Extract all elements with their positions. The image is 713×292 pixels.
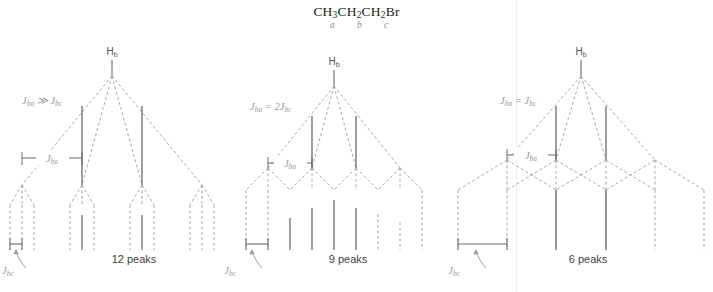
tree-2-group: Hb Jba = 2Jbc Jba bbox=[224, 56, 422, 278]
tree-1-jbc-label: Jbc bbox=[2, 265, 14, 278]
tree-3-peak-count: 6 peaks bbox=[569, 253, 608, 265]
tree-2-proton-label: Hb bbox=[328, 56, 339, 68]
tree-2-jba-bracket: Jba bbox=[268, 156, 312, 171]
tree-1-peak-count: 12 peaks bbox=[112, 253, 157, 265]
tree-1-proton-label: Hb bbox=[106, 46, 117, 58]
tree-1-jbc-bracket: Jbc bbox=[2, 238, 26, 278]
tree-3-peaks bbox=[458, 190, 704, 250]
tree-1-peaks bbox=[10, 205, 214, 250]
tree-2-peaks bbox=[246, 190, 422, 250]
tree-2-jbc-label: Jbc bbox=[224, 265, 236, 278]
tree-3-triplet-fans bbox=[458, 160, 704, 190]
tree-3-jbc-label: Jbc bbox=[448, 265, 460, 278]
tree-1-quartet-fan bbox=[22, 76, 202, 185]
splitting-trees-svg: Hb Jba ≫ Jbc bbox=[0, 0, 713, 292]
tree-2-coupling-relation: Jba = 2Jbc bbox=[250, 101, 292, 114]
tree-3-quartet-stems bbox=[556, 106, 606, 160]
tree-1-group: Hb Jba ≫ Jbc bbox=[2, 46, 214, 278]
tree-2-peak-count: 9 peaks bbox=[329, 253, 368, 265]
tree-3-jba-bracket: Jba bbox=[507, 148, 556, 163]
tree-2-quartet-fan bbox=[268, 86, 400, 168]
tree-1-jba-bracket: Jba bbox=[22, 151, 82, 166]
tree-3-coupling-relation: Jba = Jbc bbox=[500, 95, 537, 108]
tree-3-group: Hb Jba = Jbc Jba bbox=[448, 46, 704, 278]
tree-2-triplet-fans bbox=[246, 168, 422, 190]
tree-1-coupling-relation: Jba ≫ Jbc bbox=[22, 95, 63, 108]
tree-3-quartet-fan bbox=[507, 76, 655, 160]
tree-2-quartet-stems bbox=[312, 116, 356, 168]
tree-3-proton-label: Hb bbox=[575, 46, 586, 58]
tree-2-jbc-bracket: Jbc bbox=[224, 238, 268, 278]
tree-3-jbc-bracket: Jbc bbox=[448, 238, 507, 278]
tree-1-quartet-stems bbox=[22, 106, 202, 185]
nmr-splitting-diagram: CH3CH2CH2Br a b c Hb Jba ≫ Jbc bbox=[0, 0, 713, 292]
tree-1-triplet-fans bbox=[10, 185, 214, 205]
